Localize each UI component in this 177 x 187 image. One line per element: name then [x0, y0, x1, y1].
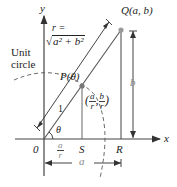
q-point-label: Q(a, b) — [121, 5, 153, 16]
r-formula: √a² + b² — [46, 35, 85, 47]
y-axis-label: y — [40, 3, 45, 14]
p-coordinates: (ar,br) — [85, 92, 109, 111]
b-dimension-label: b — [130, 77, 136, 88]
unit-length-label: 1 — [58, 104, 63, 114]
unit-circle-label-1: Unit — [11, 47, 31, 58]
origin-label: 0 — [33, 144, 39, 155]
angle-arc — [49, 132, 53, 139]
unit-circle-label-2: circle — [11, 59, 35, 70]
angle-label: θ — [56, 125, 61, 135]
point-q — [118, 27, 123, 32]
s-point-label: S — [79, 144, 85, 155]
x-axis-label: x — [164, 133, 169, 144]
r-equals-label: r = — [52, 23, 65, 33]
r-point-label: R — [116, 144, 123, 155]
p-point-label: P(θ) — [60, 71, 79, 82]
os-fraction: ar — [57, 141, 64, 160]
a-dimension-label: a — [79, 156, 85, 167]
point-p — [79, 83, 84, 88]
